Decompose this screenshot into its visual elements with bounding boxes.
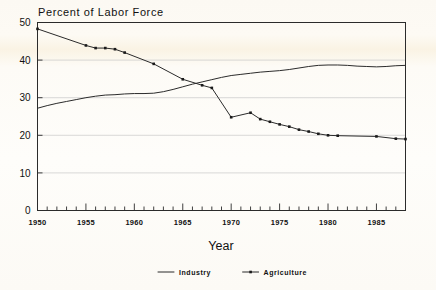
- legend-label: Agriculture: [264, 269, 307, 277]
- legend-item-industry[interactable]: Industry: [158, 269, 211, 277]
- data-point-marker: [404, 138, 407, 141]
- data-point-marker: [114, 48, 117, 51]
- plot-frame: [38, 23, 406, 211]
- data-series-layer: [36, 28, 407, 141]
- y-tick-label: 40: [19, 55, 31, 66]
- legend-marker-dot: [249, 271, 252, 274]
- y-axis-tick-labels: 01020304050: [19, 17, 31, 216]
- legend-item-agriculture[interactable]: Agriculture: [243, 269, 307, 277]
- data-point-marker: [104, 47, 107, 50]
- chart-legend: IndustryAgriculture: [158, 269, 307, 277]
- y-tick-label: 30: [19, 92, 31, 103]
- y-tick-label: 20: [19, 130, 31, 141]
- data-point-marker: [123, 51, 126, 54]
- x-axis-label: Year: [208, 239, 233, 253]
- data-point-marker: [317, 133, 320, 136]
- data-point-marker: [85, 44, 88, 47]
- data-point-marker: [278, 123, 281, 126]
- x-axis-ticks: [38, 204, 406, 211]
- y-tick-label: 50: [19, 17, 31, 28]
- data-point-marker: [230, 116, 233, 119]
- y-tick-label: 10: [19, 168, 31, 179]
- y-tick-label: 0: [25, 205, 31, 216]
- x-tick-label: 1980: [319, 218, 337, 227]
- data-point-marker: [181, 78, 184, 81]
- data-point-marker: [259, 118, 262, 121]
- x-tick-label: 1960: [125, 218, 143, 227]
- x-tick-label: 1970: [222, 218, 240, 227]
- y-axis-ticks: [38, 23, 43, 211]
- data-point-marker: [211, 87, 214, 90]
- data-point-marker: [307, 130, 310, 133]
- chart-title: Percent of Labor Force: [38, 6, 164, 18]
- legend-label: Industry: [179, 269, 211, 277]
- data-point-marker: [395, 137, 398, 140]
- data-point-marker: [375, 135, 378, 138]
- x-tick-label: 1965: [174, 218, 192, 227]
- x-tick-label: 1955: [77, 218, 95, 227]
- x-tick-label: 1950: [29, 218, 47, 227]
- data-point-marker: [152, 63, 155, 66]
- gridlines: [38, 23, 406, 173]
- series-agriculture: [36, 28, 407, 141]
- line-chart: Percent of Labor Force 01020304050 19501…: [0, 0, 436, 290]
- data-point-marker: [327, 134, 330, 137]
- data-point-marker: [36, 28, 39, 31]
- data-point-marker: [249, 111, 252, 114]
- data-point-marker: [201, 84, 204, 87]
- x-tick-label: 1985: [368, 218, 386, 227]
- chart-figure: Percent of Labor Force 01020304050 19501…: [0, 0, 436, 290]
- series-line-agriculture: [38, 29, 406, 139]
- x-axis-tick-labels: 19501955196019651970197519801985: [29, 218, 386, 227]
- data-point-marker: [288, 125, 291, 128]
- data-point-marker: [298, 128, 301, 131]
- data-point-marker: [336, 134, 339, 137]
- data-point-marker: [269, 120, 272, 123]
- data-point-marker: [94, 47, 97, 50]
- x-tick-label: 1975: [271, 218, 289, 227]
